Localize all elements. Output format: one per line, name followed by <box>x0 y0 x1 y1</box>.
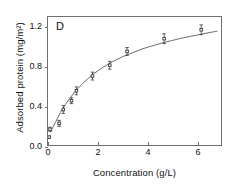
x-tick-label: 0 <box>34 147 62 157</box>
data-layer <box>48 17 221 145</box>
error-bars <box>48 25 203 138</box>
data-point <box>48 136 51 139</box>
data-point <box>163 37 166 40</box>
x-tick-label: 2 <box>84 147 112 157</box>
y-tick-label: 0.4 <box>8 101 42 111</box>
data-point <box>58 122 61 125</box>
figure-panel-d: Adsorbed protein (mg/m²) D 0.00.40.81.2 … <box>0 0 236 187</box>
plot-area: D 0.00.40.81.2 0246 <box>47 16 222 146</box>
x-axis-label: Concentration (g/L) <box>47 167 222 178</box>
x-tick-label: 4 <box>134 147 162 157</box>
y-tick-label: 1.2 <box>8 21 42 31</box>
data-point <box>75 90 78 93</box>
data-point <box>62 108 65 111</box>
data-point <box>200 29 203 32</box>
y-tick-label: 0.8 <box>8 61 42 71</box>
x-tick-label: 6 <box>184 147 212 157</box>
data-point <box>70 99 73 102</box>
data-point <box>109 64 112 67</box>
data-point <box>49 128 52 131</box>
data-point <box>126 50 129 53</box>
fit-curve <box>50 31 217 132</box>
data-markers <box>48 29 203 139</box>
data-point <box>91 75 94 78</box>
